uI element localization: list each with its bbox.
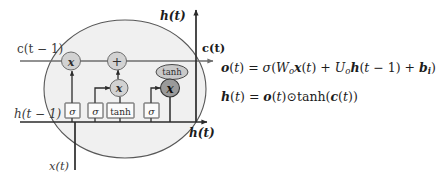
operator-output-multiply-label: 𝒙 [165, 82, 174, 96]
label-c-out: c(t) [202, 41, 225, 55]
gate-candidate[interactable]: tanh [107, 103, 134, 118]
label-h-out-top: h(t) [160, 9, 186, 23]
label-x-input: x(t) [49, 159, 69, 173]
operator-output-tanh-label: tanh [162, 67, 182, 77]
equations-block: o(t) = σ(Wox(t) + Uoh(t − 1) + bi) h(t) … [221, 58, 447, 122]
equation-hidden-state: h(t) = o(t)⊙tanh(c(t)) [221, 91, 358, 104]
gate-output-label: σ [148, 106, 155, 117]
operator-input-multiply[interactable]: 𝒙 [110, 80, 128, 97]
gate-input-label: σ [92, 106, 99, 117]
operator-output-tanh[interactable]: tanh [156, 65, 188, 80]
equation-output-gate: o(t) = σ(Wox(t) + Uoh(t − 1) + bi) [221, 62, 436, 76]
label-c-prev: c(t − 1) [17, 42, 63, 56]
operator-output-multiply[interactable]: 𝒙 [161, 79, 180, 97]
gate-candidate-label: tanh [110, 107, 131, 117]
gate-forget[interactable]: σ [65, 103, 80, 118]
gate-forget-label: σ [69, 106, 76, 117]
operator-forget-multiply[interactable]: 𝒙 [62, 52, 81, 70]
label-h-prev: h(t − 1) [14, 107, 62, 121]
operator-state-add[interactable]: + [108, 52, 127, 70]
operator-input-multiply-label: 𝒙 [115, 82, 123, 95]
gate-output[interactable]: σ [144, 103, 159, 118]
lstm-cell-figure: σ σ tanh σ 𝒙 + 𝒙 tanh [0, 0, 447, 179]
operator-forget-multiply-label: 𝒙 [67, 56, 75, 69]
gate-input[interactable]: σ [88, 103, 103, 118]
operator-state-add-label: + [112, 54, 123, 69]
label-h-out-right: h(t) [189, 126, 215, 140]
